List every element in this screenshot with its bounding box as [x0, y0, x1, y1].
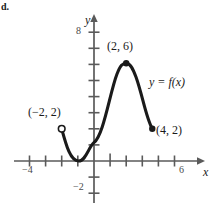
x-tick-label-neg4: −4	[22, 165, 33, 175]
point-label-4-2: (4, 2)	[156, 124, 182, 136]
marker-filled-point-4-2	[149, 126, 155, 132]
function-label: y = f(x)	[149, 76, 185, 88]
x-axis-ticks	[30, 154, 175, 167]
x-axis-label: x	[203, 166, 208, 178]
x-axis-arrow-icon	[197, 157, 205, 165]
marker-open-point-neg2-2	[58, 126, 65, 133]
point-label-neg2-2: (−2, 2)	[28, 106, 61, 118]
y-axis-label: y	[85, 14, 90, 26]
y-tick-label-8: 8	[76, 26, 81, 36]
x-tick-label-6: 6	[179, 165, 184, 175]
y-tick-label-neg2: −2	[73, 182, 84, 192]
marker-filled-point-2-6	[123, 60, 129, 66]
function-curve	[62, 63, 153, 161]
y-axis-arrow-icon	[90, 14, 97, 22]
point-label-2-6: (2, 6)	[107, 40, 133, 52]
